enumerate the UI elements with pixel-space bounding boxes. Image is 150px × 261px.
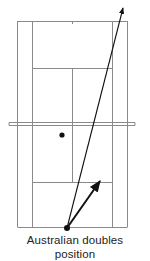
caption-line-1: Australian doubles [0,233,150,248]
serve-arrow-long [67,8,123,228]
tennis-court-diagram [0,0,150,261]
partner-player-dot [59,132,64,137]
server-player-dot [64,225,70,231]
server-move-arrow [67,181,100,228]
court-lines [9,21,135,228]
caption-line-2: position [0,247,150,261]
